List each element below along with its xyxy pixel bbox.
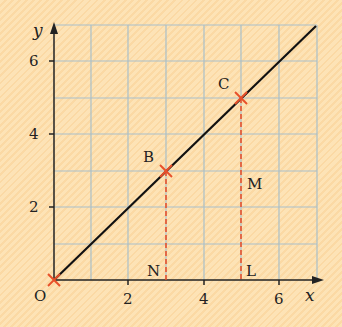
label-l: L [246, 262, 256, 280]
diagram: O B C N L M x y 2 4 6 2 4 6 [0, 0, 342, 327]
graph: O B C N L M x y 2 4 6 2 4 6 [0, 0, 342, 327]
x-axis-arrow-icon [312, 276, 324, 284]
x-tick-2: 2 [123, 290, 133, 308]
label-m: M [247, 175, 262, 193]
y-tick-2: 2 [29, 198, 39, 216]
label-n: N [147, 262, 160, 280]
x-tick-6: 6 [274, 290, 284, 308]
label-o: O [34, 287, 46, 305]
x-axis-label: x [305, 285, 315, 305]
y-tick-6: 6 [29, 52, 39, 70]
y-axis-arrow-icon [50, 22, 58, 34]
y-axis-label: y [32, 20, 43, 40]
line-y-equals-x [54, 26, 316, 280]
x-tick-4: 4 [199, 290, 209, 308]
y-tick-4: 4 [29, 125, 39, 143]
label-c: C [218, 75, 229, 93]
label-b: B [143, 148, 154, 166]
